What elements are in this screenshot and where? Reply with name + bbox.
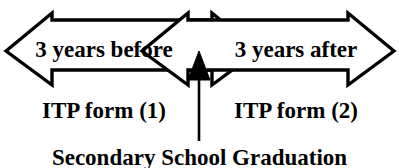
period-label-after: 3 years after bbox=[208, 38, 384, 61]
form-label-two: ITP form (2) bbox=[208, 99, 384, 122]
graduation-caption: Secondary School Graduation bbox=[0, 146, 399, 168]
timeline-diagram: 3 years before 3 years after ITP form (1… bbox=[0, 0, 399, 168]
diagram-canvas bbox=[0, 0, 399, 168]
form-label-one: ITP form (1) bbox=[16, 99, 192, 122]
period-label-before: 3 years before bbox=[16, 38, 192, 61]
